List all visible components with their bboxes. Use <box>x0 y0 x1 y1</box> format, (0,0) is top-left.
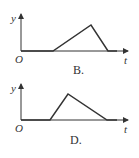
y-axis-label: y <box>11 82 16 94</box>
option-label: B. <box>73 63 84 78</box>
option-label: D. <box>70 133 82 148</box>
graph-b <box>21 14 128 51</box>
x-axis-label: t <box>124 123 127 135</box>
curve-b <box>21 25 117 51</box>
origin-label: O <box>15 122 23 134</box>
curve-d <box>21 94 117 120</box>
x-axis-label: t <box>124 54 127 66</box>
graph-d <box>21 84 128 120</box>
y-axis-label: y <box>11 12 16 24</box>
origin-label: O <box>15 53 23 65</box>
